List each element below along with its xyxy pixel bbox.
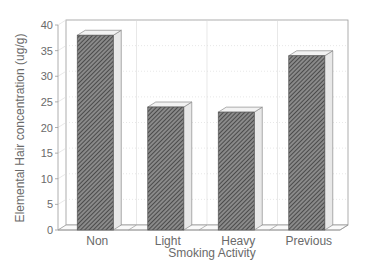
y-tick-label: 25 bbox=[41, 96, 53, 108]
chart-canvas: 0510152025303540 NonLightHeavyPrevious S… bbox=[0, 0, 374, 277]
y-axis-label: Elemental Hair concentration (ug/g) bbox=[13, 34, 27, 223]
y-tick-label: 20 bbox=[41, 122, 53, 134]
bar-previous bbox=[289, 51, 333, 230]
y-tick-label: 35 bbox=[41, 45, 53, 57]
x-axis-label: Smoking Activity bbox=[168, 246, 255, 260]
y-tick-label: 15 bbox=[41, 147, 53, 159]
bar-non bbox=[77, 30, 121, 230]
bar-light bbox=[148, 102, 192, 230]
y-axis-ticks: 0510152025303540 bbox=[41, 19, 58, 236]
x-tick-label: Non bbox=[86, 234, 108, 248]
y-tick-label: 0 bbox=[47, 224, 53, 236]
y-tick-label: 10 bbox=[41, 173, 53, 185]
x-tick-label: Previous bbox=[285, 234, 332, 248]
y-tick-label: 30 bbox=[41, 70, 53, 82]
bars bbox=[77, 30, 333, 230]
bar-chart: 0510152025303540 NonLightHeavyPrevious S… bbox=[0, 0, 374, 277]
y-tick-label: 5 bbox=[47, 198, 53, 210]
y-tick-label: 40 bbox=[41, 19, 53, 31]
bar-heavy bbox=[218, 107, 262, 230]
